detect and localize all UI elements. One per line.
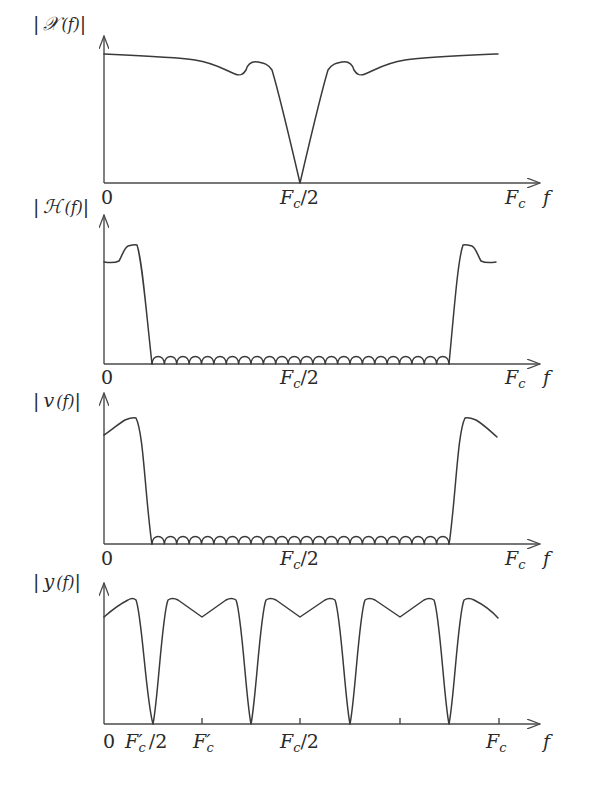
axis-var-f: f bbox=[541, 186, 553, 208]
stopband-ripples bbox=[152, 537, 449, 545]
tick-fc-prime-half: F′c/2 bbox=[124, 730, 167, 755]
spectra-diagram: |𝒳(f)| 0 Fc/2 Fc f |ℋ(f)| 0 Fc/2 Fc f |v… bbox=[0, 0, 591, 787]
tick-fc-half: Fc/2 bbox=[279, 186, 319, 211]
tick-fc-half: Fc/2 bbox=[279, 730, 319, 755]
passband-high bbox=[449, 245, 496, 364]
tick-fc: Fc bbox=[504, 366, 526, 391]
axis-var-f: f bbox=[541, 366, 553, 388]
y-label: |y(f)| bbox=[33, 570, 81, 593]
passband-low bbox=[104, 245, 152, 364]
panel-decimated-spectrum: |y(f)| 0 F′c/2 F′c Fc/2 Fc f bbox=[33, 570, 553, 755]
tick-fc: Fc bbox=[504, 547, 526, 572]
tick-zero: 0 bbox=[101, 547, 113, 569]
y-label: |ℋ(f)| bbox=[33, 195, 89, 218]
axis-var-f: f bbox=[541, 730, 553, 752]
tick-zero: 0 bbox=[101, 366, 113, 388]
tick-fc-half: Fc/2 bbox=[279, 547, 319, 572]
y-label: |𝒳(f)| bbox=[33, 12, 86, 35]
spectrum-curve bbox=[104, 54, 498, 183]
panel-input-spectrum: |𝒳(f)| 0 Fc/2 Fc f bbox=[33, 12, 553, 211]
tick-zero: 0 bbox=[101, 186, 113, 208]
passband-low bbox=[104, 418, 152, 544]
tick-zero: 0 bbox=[103, 730, 115, 752]
tick-fc-half: Fc/2 bbox=[279, 366, 319, 391]
axis-var-f: f bbox=[541, 547, 553, 569]
stopband-ripples bbox=[152, 357, 449, 365]
passband-high bbox=[449, 418, 497, 544]
y-label: |v(f)| bbox=[33, 389, 81, 412]
tick-fc-prime: F′c bbox=[192, 730, 215, 755]
periodic-spectrum-curve bbox=[104, 599, 498, 725]
panel-filter-response: |ℋ(f)| 0 Fc/2 Fc f bbox=[33, 195, 553, 391]
panel-filtered-spectrum: |v(f)| 0 Fc/2 Fc f bbox=[33, 389, 553, 572]
tick-fc: Fc bbox=[504, 186, 526, 211]
tick-fc: Fc bbox=[485, 730, 507, 755]
